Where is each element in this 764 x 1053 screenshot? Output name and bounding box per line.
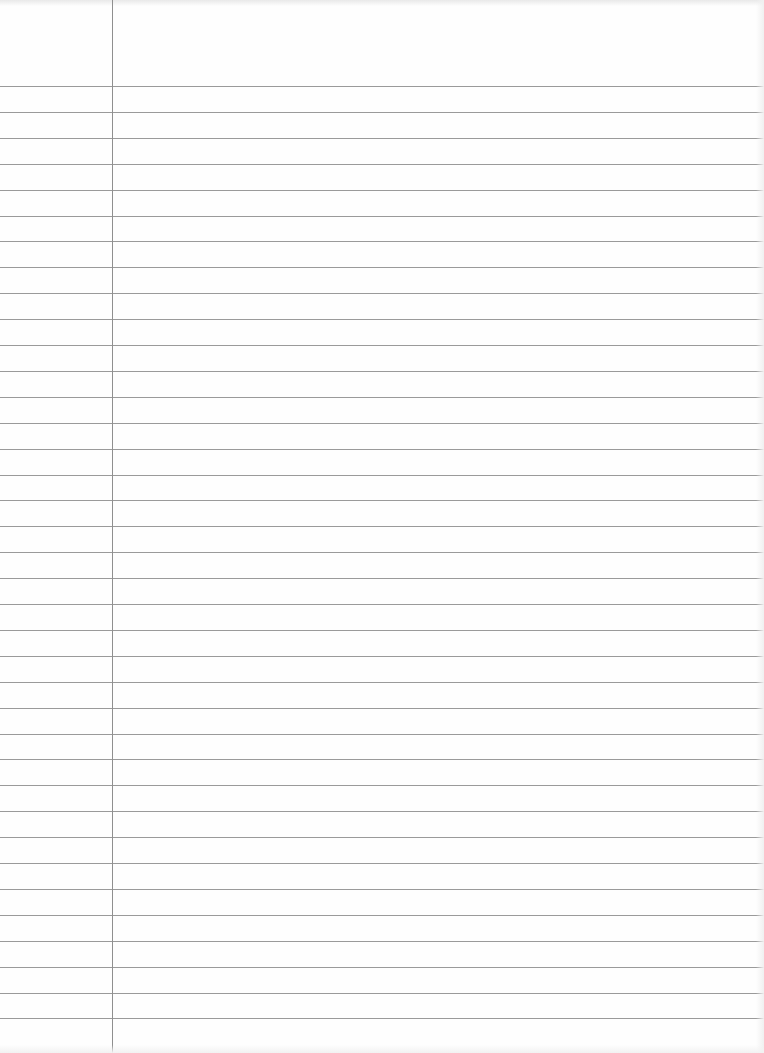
- ruled-line: [0, 837, 764, 838]
- ruled-line: [0, 863, 764, 864]
- ruled-line: [0, 759, 764, 760]
- ruled-line: [0, 552, 764, 553]
- ruled-line: [0, 785, 764, 786]
- ruled-line: [0, 500, 764, 501]
- ruled-line: [0, 656, 764, 657]
- ruled-line: [0, 397, 764, 398]
- ruled-line: [0, 811, 764, 812]
- ruled-line: [0, 164, 764, 165]
- ruled-line: [0, 889, 764, 890]
- ruled-line: [0, 578, 764, 579]
- ruled-line: [0, 138, 764, 139]
- ruled-line: [0, 241, 764, 242]
- ruled-line: [0, 267, 764, 268]
- ruled-line: [0, 604, 764, 605]
- ruled-line: [0, 915, 764, 916]
- ruled-line: [0, 708, 764, 709]
- ruled-line: [0, 734, 764, 735]
- ruled-line: [0, 682, 764, 683]
- ruled-line: [0, 475, 764, 476]
- ruled-line: [0, 1018, 764, 1019]
- ruled-line: [0, 86, 764, 87]
- bottom-edge-shadow: [0, 1045, 764, 1053]
- ruled-line: [0, 449, 764, 450]
- ruled-line: [0, 319, 764, 320]
- ruled-line: [0, 967, 764, 968]
- ruled-line: [0, 423, 764, 424]
- ruled-line: [0, 526, 764, 527]
- ruled-line: [0, 630, 764, 631]
- ruled-line: [0, 941, 764, 942]
- ruled-line: [0, 993, 764, 994]
- margin-line: [112, 0, 113, 1053]
- ruled-line: [0, 112, 764, 113]
- ruled-line: [0, 345, 764, 346]
- ruled-line: [0, 190, 764, 191]
- ruled-line: [0, 293, 764, 294]
- ruled-line: [0, 216, 764, 217]
- ruled-line: [0, 371, 764, 372]
- ruled-lines: [0, 0, 764, 1053]
- notebook-page: [0, 0, 764, 1053]
- right-edge-shadow: [756, 0, 764, 1053]
